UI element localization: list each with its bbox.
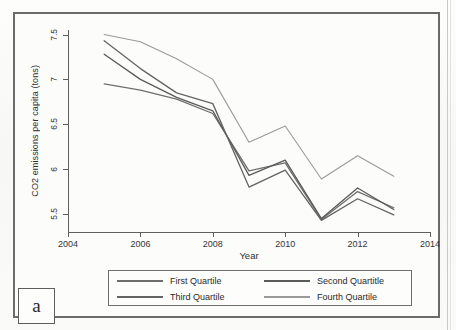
y-tick-label-wrap: 6.5 <box>47 112 61 136</box>
x-axis-title: Year <box>68 250 430 261</box>
legend-swatch-second-quartile <box>264 280 310 282</box>
page-gutter-line <box>447 0 448 330</box>
legend-label-third-quartile: Third Quartile <box>170 292 225 302</box>
panel-letter-text: a <box>32 295 40 317</box>
y-tick-label: 7.5 <box>49 29 59 41</box>
x-tick-label: 2012 <box>338 239 378 249</box>
series-line-first-quartile <box>104 84 394 220</box>
y-tick-mark <box>63 169 68 170</box>
legend-swatch-fourth-quartile <box>264 296 310 298</box>
legend-item-fourth-quartile: Fourth Quartile <box>260 289 407 305</box>
y-tick-label: 7 <box>49 77 59 82</box>
y-axis-title: CO2 emissions per capita (tons) <box>28 30 42 232</box>
legend-swatch-third-quartile <box>117 296 163 298</box>
x-tick-mark <box>213 232 214 237</box>
legend: First Quartile Second Quartitle Third Qu… <box>108 270 412 306</box>
legend-row: First Quartile Second Quartitle <box>113 273 407 289</box>
x-tick-mark <box>285 232 286 237</box>
y-tick-mark <box>63 214 68 215</box>
x-tick-mark <box>358 232 359 237</box>
figure-page: CO2 emissions per capita (tons) 5.566.57… <box>0 0 456 330</box>
y-tick-label-wrap: 7 <box>47 67 61 91</box>
series-line-fourth-quartile <box>104 34 394 179</box>
panel-letter: a <box>18 288 55 324</box>
page-gutter-line-secondary <box>450 0 451 330</box>
x-tick-label: 2004 <box>48 239 88 249</box>
x-tick-label: 2006 <box>120 239 160 249</box>
x-tick-mark <box>140 232 141 237</box>
y-tick-mark <box>63 124 68 125</box>
x-tick-label: 2014 <box>410 239 450 249</box>
y-tick-label: 5.5 <box>49 208 59 220</box>
legend-swatch-first-quartile <box>117 280 163 282</box>
y-tick-label: 6.5 <box>49 118 59 130</box>
x-tick-mark <box>430 232 431 237</box>
y-axis-title-text: CO2 emissions per capita (tons) <box>30 65 40 197</box>
legend-label-second-quartile: Second Quartitle <box>317 276 384 286</box>
x-tick-label: 2010 <box>265 239 305 249</box>
y-tick-label: 6 <box>49 167 59 172</box>
plot-canvas <box>68 30 430 232</box>
y-tick-label-wrap: 6 <box>47 157 61 181</box>
legend-item-first-quartile: First Quartile <box>113 273 260 289</box>
series-line-second-quartitle <box>104 54 394 218</box>
series-group <box>104 34 394 220</box>
y-tick-label-wrap: 7.5 <box>47 23 61 47</box>
legend-label-first-quartile: First Quartile <box>170 276 222 286</box>
legend-item-second-quartile: Second Quartitle <box>260 273 407 289</box>
legend-item-third-quartile: Third Quartile <box>113 289 260 305</box>
y-tick-label-wrap: 5.5 <box>47 202 61 226</box>
x-tick-label: 2008 <box>193 239 233 249</box>
x-tick-mark <box>68 232 69 237</box>
legend-row: Third Quartile Fourth Quartile <box>113 289 407 305</box>
x-axis-line <box>68 232 430 233</box>
legend-label-fourth-quartile: Fourth Quartile <box>317 292 377 302</box>
y-tick-mark <box>63 79 68 80</box>
y-tick-mark <box>63 35 68 36</box>
